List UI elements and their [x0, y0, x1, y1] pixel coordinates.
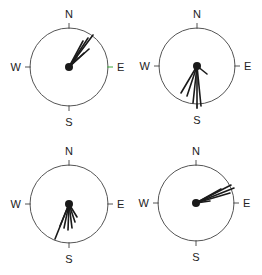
west-label: W — [140, 60, 151, 72]
center-dot — [192, 199, 200, 207]
south-label: S — [65, 116, 72, 128]
south-label: S — [193, 114, 200, 126]
center-dot — [65, 63, 73, 71]
north-label: N — [65, 8, 73, 20]
west-label: W — [139, 197, 150, 209]
compass-bottom-left: NSWE — [11, 145, 125, 265]
south-label: S — [65, 253, 72, 265]
west-label: W — [11, 198, 22, 210]
compass-top-right: NSWE — [140, 8, 252, 126]
east-label: E — [243, 197, 250, 209]
north-label: N — [192, 145, 200, 157]
north-label: N — [193, 8, 201, 20]
north-label: N — [65, 145, 73, 157]
west-label: W — [11, 61, 22, 73]
center-dot — [65, 200, 73, 208]
center-dot — [193, 62, 201, 70]
east-label: E — [117, 198, 124, 210]
east-label: E — [244, 60, 251, 72]
compass-diagram-figure: NSWENSWENSWENSWE — [0, 0, 262, 275]
compass-top-left: NSWE — [11, 8, 125, 128]
east-label: E — [117, 61, 124, 73]
south-label: S — [192, 251, 199, 263]
compass-bottom-right: NSWE — [139, 145, 251, 263]
